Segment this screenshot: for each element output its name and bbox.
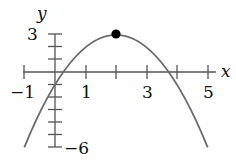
x-tick-label-3: 3 bbox=[142, 82, 153, 102]
x-tick-label-5: 5 bbox=[203, 82, 214, 102]
vertex-point bbox=[111, 29, 120, 38]
chart-canvas: y 3 −6 x −1 1 3 5 bbox=[0, 0, 236, 160]
parabola-chart: y 3 −6 x −1 1 3 5 bbox=[0, 0, 236, 160]
y-axis-label: y bbox=[36, 3, 47, 23]
x-tick-label-neg1: −1 bbox=[10, 82, 35, 102]
x-axis-label: x bbox=[221, 61, 231, 81]
parabola-curve bbox=[24, 35, 207, 147]
y-tick-label-3: 3 bbox=[27, 24, 38, 44]
x-tick-label-1: 1 bbox=[81, 82, 92, 102]
y-tick-label-neg6: −6 bbox=[64, 138, 89, 158]
